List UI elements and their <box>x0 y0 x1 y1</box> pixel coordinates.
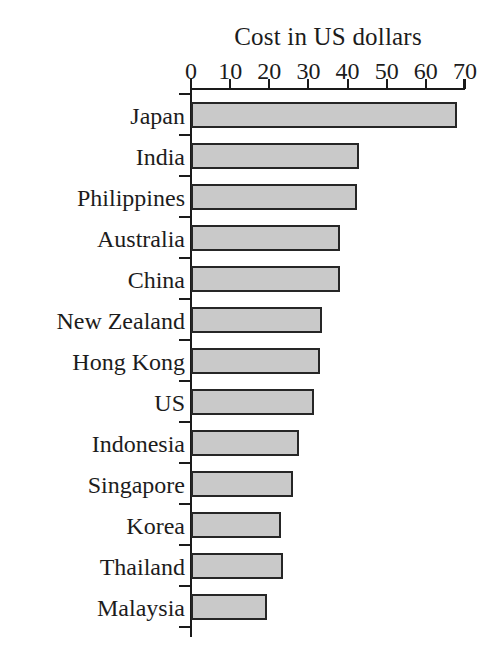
bar <box>191 389 314 415</box>
y-axis-tick-mark <box>179 544 191 546</box>
bar <box>191 307 322 333</box>
category-label: Hong Kong <box>72 348 185 376</box>
bar-row: Hong Kong <box>0 348 501 374</box>
category-label: Singapore <box>88 471 185 499</box>
bar <box>191 184 357 210</box>
bar-row: Australia <box>0 225 501 251</box>
bar-row: Korea <box>0 512 501 538</box>
bar <box>191 266 340 292</box>
y-axis-tick-mark <box>179 380 191 382</box>
category-label: Philippines <box>77 184 185 212</box>
y-axis-tick-mark <box>179 585 191 587</box>
x-axis-tick-mark <box>425 79 427 89</box>
bar <box>191 143 359 169</box>
bar <box>191 512 281 538</box>
y-axis-tick-mark <box>179 626 191 628</box>
x-axis-tick-mark <box>307 79 309 89</box>
category-label: Australia <box>97 225 185 253</box>
category-label: Indonesia <box>92 430 185 458</box>
category-label: Japan <box>130 102 185 130</box>
x-axis-tick-mark <box>268 79 270 89</box>
bar <box>191 594 267 620</box>
category-label: Thailand <box>100 553 185 581</box>
bar <box>191 348 320 374</box>
bar-row: Japan <box>0 102 501 128</box>
bar-row: Singapore <box>0 471 501 497</box>
bar-row: Thailand <box>0 553 501 579</box>
y-axis-tick-mark <box>179 134 191 136</box>
x-axis-tick-mark <box>464 79 466 89</box>
bar <box>191 553 283 579</box>
plot-area: JapanIndiaPhilippinesAustraliaChinaNew Z… <box>0 0 501 655</box>
bar-row: US <box>0 389 501 415</box>
category-label: India <box>136 143 185 171</box>
x-axis-tick-mark <box>190 79 192 89</box>
y-axis-tick-mark <box>179 257 191 259</box>
y-axis-tick-mark <box>179 421 191 423</box>
category-label: Malaysia <box>97 594 185 622</box>
bar <box>191 430 299 456</box>
y-axis-tick-mark <box>179 175 191 177</box>
y-axis-tick-mark <box>179 93 191 95</box>
y-axis-tick-mark <box>179 216 191 218</box>
bar-row: Malaysia <box>0 594 501 620</box>
category-label: US <box>154 389 185 417</box>
bar <box>191 471 293 497</box>
bar <box>191 102 457 128</box>
bar <box>191 225 340 251</box>
y-axis-tick-mark <box>179 298 191 300</box>
category-label: New Zealand <box>56 307 185 335</box>
bar-row: New Zealand <box>0 307 501 333</box>
category-label: China <box>128 266 185 294</box>
y-axis-tick-mark <box>179 462 191 464</box>
x-axis-tick-mark <box>386 79 388 89</box>
bar-chart: Cost in US dollars 010203040506070 Japan… <box>0 0 501 655</box>
y-axis-tick-mark <box>179 339 191 341</box>
bar-row: Philippines <box>0 184 501 210</box>
category-label: Korea <box>126 512 185 540</box>
bar-row: India <box>0 143 501 169</box>
bar-row: China <box>0 266 501 292</box>
x-axis-tick-mark <box>347 79 349 89</box>
bar-row: Indonesia <box>0 430 501 456</box>
x-axis-tick-mark <box>229 79 231 89</box>
y-axis-tick-mark <box>179 503 191 505</box>
